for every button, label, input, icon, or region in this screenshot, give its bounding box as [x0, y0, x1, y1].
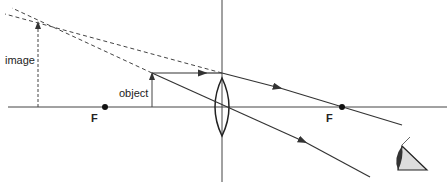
ray-diagram [0, 0, 447, 192]
eye-icon [396, 137, 427, 170]
focal-label-left: F [91, 112, 98, 124]
image-label: image [5, 54, 35, 66]
focal-label-right: F [326, 112, 333, 124]
focal-point-left [102, 104, 108, 110]
object-label: object [119, 87, 148, 99]
focal-point-right [339, 104, 345, 110]
